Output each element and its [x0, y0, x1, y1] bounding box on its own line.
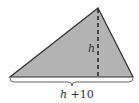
triangle-shape [10, 8, 133, 77]
triangle-diagram: h h +10 [0, 0, 139, 103]
height-label: h [88, 42, 95, 55]
base-label-rest: +10 [67, 88, 94, 101]
base-label-var: h [60, 88, 67, 101]
base-label: h +10 [60, 88, 94, 101]
base-brace [10, 78, 133, 86]
